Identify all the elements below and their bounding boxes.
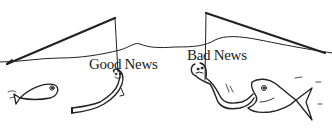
worried-worm [191,63,254,109]
big-fish [248,77,322,120]
good-news-label: Good News [89,57,158,72]
water-line [0,37,332,62]
happy-worm [72,69,124,113]
small-fish [8,84,58,104]
bad-news-label: Bad News [187,48,247,63]
cartoon-illustration: Good News Bad News [0,0,332,133]
cartoon-drawing [0,0,332,133]
